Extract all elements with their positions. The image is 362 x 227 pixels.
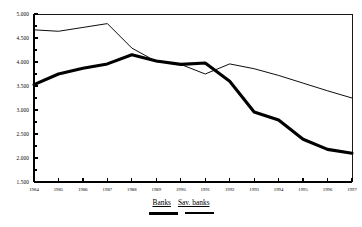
- x-tick-label: 1986: [78, 187, 88, 192]
- plot-area: 1.5002.0002.5003.0003.5004.0004.5005.000…: [0, 0, 362, 200]
- line-chart-svg: 1.5002.0002.5003.0003.5004.0004.5005.000…: [0, 0, 362, 200]
- x-tick-label: 1993: [249, 187, 259, 192]
- y-tick-label: 2.000: [17, 155, 30, 161]
- x-tick-label: 1991: [200, 187, 210, 192]
- y-tick-label: 3.000: [17, 107, 30, 113]
- chart-legend: Banks Sav. banks: [0, 198, 362, 227]
- x-axis-tick-labels: 1984198519861987198819891990199119921993…: [29, 187, 357, 192]
- legend-label-banks: Banks: [152, 198, 170, 207]
- legend-swatch-cell-banks: [149, 210, 178, 216]
- x-tick-label: 1992: [225, 187, 235, 192]
- legend-swatch-cell-sav-banks: [185, 210, 214, 216]
- x-tick-label: 1994: [274, 187, 284, 192]
- x-tick-label: 1985: [54, 187, 64, 192]
- thin-line-swatch: [185, 212, 214, 213]
- y-tick-label: 4.000: [17, 59, 30, 65]
- y-tick-label: 5.000: [17, 11, 30, 17]
- x-tick-label: 1995: [298, 187, 308, 192]
- legend-swatch-row: [149, 210, 214, 216]
- x-tick-label: 1996: [323, 187, 333, 192]
- y-tick-label: 3.500: [17, 83, 30, 89]
- x-tick-label: 1984: [29, 187, 39, 192]
- x-tick-label: 1988: [127, 187, 137, 192]
- x-tick-label: 1997: [347, 187, 357, 192]
- y-axis-tick-labels: 1.5002.0002.5003.0003.5004.0004.5005.000: [17, 11, 30, 185]
- y-tick-label: 1.500: [17, 179, 30, 185]
- data-series-layer: [34, 24, 352, 154]
- thick-line-swatch: [149, 212, 178, 215]
- legend-label-sav-banks: Sav. banks: [178, 198, 210, 207]
- y-tick-label: 2.500: [17, 131, 30, 137]
- chart-frame: [34, 14, 352, 182]
- y-tick-label: 4.500: [17, 35, 30, 41]
- chart-figure: 1.5002.0002.5003.0003.5004.0004.5005.000…: [0, 0, 362, 227]
- x-tick-label: 1987: [103, 187, 113, 192]
- x-tick-label: 1990: [176, 187, 186, 192]
- x-tick-label: 1989: [152, 187, 162, 192]
- legend-label-row: Banks Sav. banks: [152, 198, 209, 207]
- series-line-sav-banks: [34, 24, 352, 98]
